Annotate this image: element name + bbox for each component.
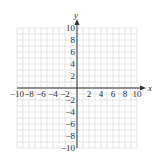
- x-tick-label: 4: [99, 89, 104, 99]
- x-tick-label: −4: [48, 89, 58, 99]
- x-tick-label: 10: [133, 89, 143, 99]
- y-tick-label: −8: [65, 131, 75, 141]
- axes: [17, 19, 146, 148]
- x-tick-label: 8: [123, 89, 128, 99]
- y-tick-label: 6: [71, 47, 76, 57]
- x-tick-label: −6: [36, 89, 46, 99]
- y-tick-label: 10: [66, 23, 76, 33]
- y-tick-label: −2: [65, 95, 75, 105]
- y-tick-label: 8: [71, 35, 76, 45]
- x-tick-label: 6: [111, 89, 116, 99]
- y-tick-label: −10: [61, 143, 76, 153]
- x-axis-label: x: [147, 83, 152, 93]
- y-tick-label: 4: [71, 59, 76, 69]
- y-axis-label: y: [73, 10, 78, 20]
- x-tick-label: 2: [87, 89, 92, 99]
- coordinate-plane: −10−8−6−4−2246810 108642−2−4−6−8−10 x y: [0, 0, 158, 156]
- y-tick-label: −4: [65, 107, 75, 117]
- x-tick-label: −8: [24, 89, 34, 99]
- y-tick-label: 2: [71, 71, 76, 81]
- x-tick-label: −10: [10, 89, 25, 99]
- y-tick-label: −6: [65, 119, 75, 129]
